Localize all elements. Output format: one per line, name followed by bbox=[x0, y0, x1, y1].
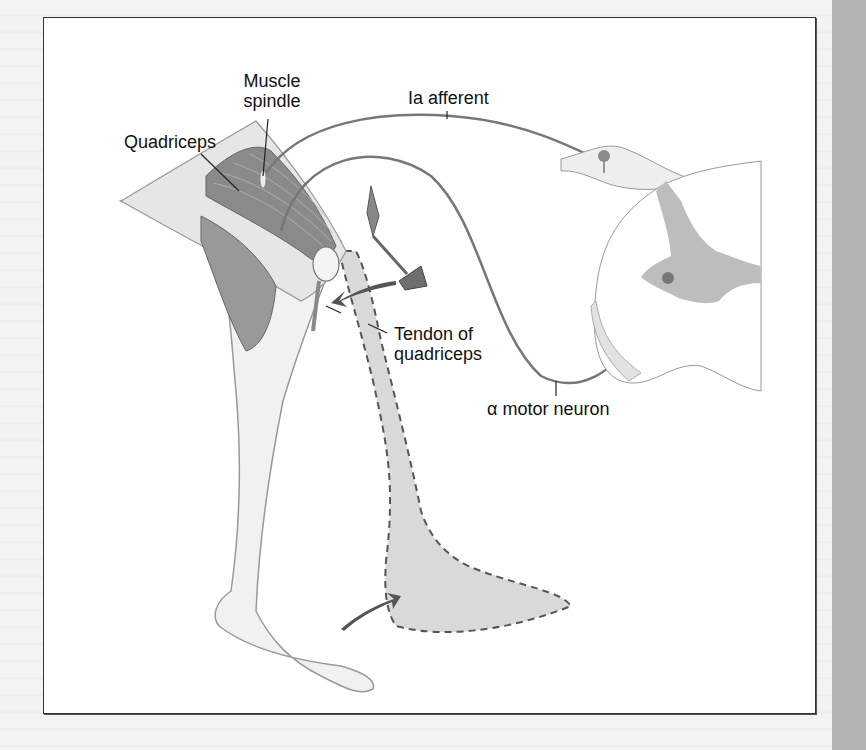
sensory-cell-body bbox=[598, 150, 610, 162]
tendon-of-quadriceps-label: Tendon of quadriceps bbox=[394, 324, 482, 364]
tendon-label-line1: Tendon of bbox=[394, 324, 482, 344]
muscle-spindle-label: Muscle spindle bbox=[232, 71, 312, 111]
quadriceps-label: Quadriceps bbox=[124, 132, 216, 152]
muscle-spindle-label-line2: spindle bbox=[232, 91, 312, 111]
ia-afferent-label: Ia afferent bbox=[408, 88, 489, 108]
muscle-spindle-label-line1: Muscle bbox=[232, 71, 312, 91]
tendon-label-line2: quadriceps bbox=[394, 344, 482, 364]
reflex-hammer-icon bbox=[367, 186, 427, 290]
patella bbox=[313, 247, 339, 281]
extended-leg-outline bbox=[339, 251, 571, 632]
motor-cell-body bbox=[662, 272, 674, 284]
reflex-diagram bbox=[1, 1, 866, 750]
figure-frame: Muscle spindle Quadriceps Ia afferent Te… bbox=[43, 17, 816, 714]
alpha-motor-neuron-label: α motor neuron bbox=[487, 399, 609, 419]
